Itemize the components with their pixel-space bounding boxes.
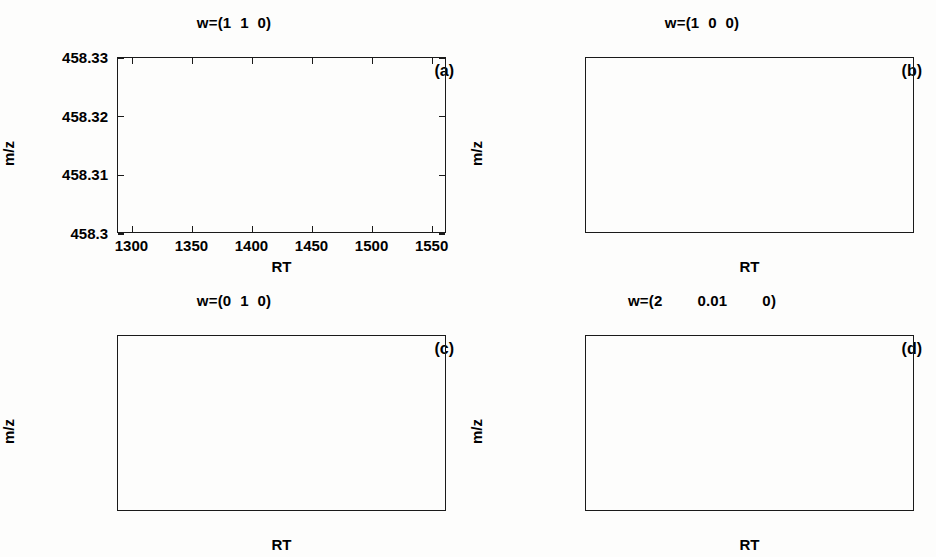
x-ticklabel-1500: 1500 xyxy=(355,237,388,254)
panel-b-title: w=(1 0 0) xyxy=(468,14,936,31)
x-tick-top-1400 xyxy=(252,58,254,64)
panel-c: w=(0 1 0) m/z RT (c) xyxy=(0,278,468,556)
y-ticklabel-458.31: 458.31 xyxy=(62,166,108,183)
x-ticklabel-1400: 1400 xyxy=(235,237,268,254)
y-tick-right-458.31 xyxy=(439,175,445,177)
x-tick-1500 xyxy=(372,226,374,232)
panel-d-axes xyxy=(585,335,914,511)
panel-a-ylabel: m/z xyxy=(0,141,17,166)
x-ticklabel-1350: 1350 xyxy=(175,237,208,254)
y-tick-458.32 xyxy=(118,116,124,118)
panel-a-axes xyxy=(117,57,446,233)
x-tick-top-1450 xyxy=(312,58,314,64)
panel-d: w=(2 0.01 0) m/z RT (d) xyxy=(468,278,936,556)
x-tick-1400 xyxy=(252,226,254,232)
y-tick-right-458.32 xyxy=(439,116,445,118)
panel-b-plot-area xyxy=(586,58,913,232)
panel-d-ylabel: m/z xyxy=(468,419,485,444)
panel-c-title: w=(0 1 0) xyxy=(0,292,468,309)
panel-b-ylabel: m/z xyxy=(468,141,485,166)
panel-d-xlabel: RT xyxy=(585,536,914,553)
panel-d-title: w=(2 0.01 0) xyxy=(468,292,936,309)
panel-a: w=(1 1 0) m/z RT (a) 1300135014001450150… xyxy=(0,0,468,278)
x-tick-top-1550 xyxy=(432,58,434,64)
panel-d-plot-area xyxy=(586,336,913,510)
panel-a-xlabel: RT xyxy=(117,258,446,275)
panel-c-axes xyxy=(117,335,446,511)
panel-a-title: w=(1 1 0) xyxy=(0,14,468,31)
y-tick-458.31 xyxy=(118,175,124,177)
x-ticklabel-1550: 1550 xyxy=(415,237,448,254)
x-tick-1550 xyxy=(432,226,434,232)
panel-c-plot-area xyxy=(118,336,445,510)
x-ticklabel-1450: 1450 xyxy=(295,237,328,254)
x-tick-1300 xyxy=(132,226,134,232)
panel-c-ylabel: m/z xyxy=(0,419,17,444)
x-ticklabel-1300: 1300 xyxy=(115,237,148,254)
x-tick-1350 xyxy=(192,226,194,232)
x-tick-top-1350 xyxy=(192,58,194,64)
y-ticklabel-458.3: 458.3 xyxy=(70,225,108,242)
y-tick-right-458.33 xyxy=(439,57,445,59)
panel-b-axes xyxy=(585,57,914,233)
panel-a-plot-area xyxy=(118,58,445,232)
panel-b-xlabel: RT xyxy=(585,258,914,275)
y-tick-right-458.3 xyxy=(439,233,445,235)
y-ticklabel-458.32: 458.32 xyxy=(62,107,108,124)
x-tick-top-1500 xyxy=(372,58,374,64)
panel-c-xlabel: RT xyxy=(117,536,446,553)
x-tick-1450 xyxy=(312,226,314,232)
y-tick-458.33 xyxy=(118,57,124,59)
panel-b: w=(1 0 0) m/z RT (b) xyxy=(468,0,936,278)
y-tick-458.3 xyxy=(118,233,124,235)
x-tick-top-1300 xyxy=(132,58,134,64)
y-ticklabel-458.33: 458.33 xyxy=(62,49,108,66)
figure-root: w=(1 1 0) m/z RT (a) 1300135014001450150… xyxy=(0,0,936,557)
